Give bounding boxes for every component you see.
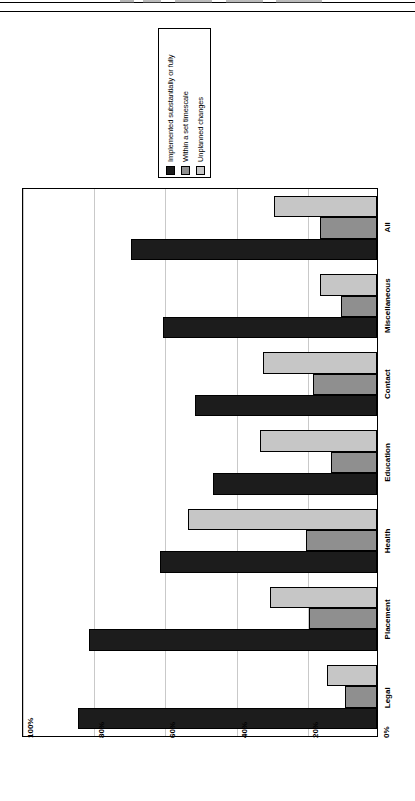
bar-group [23, 658, 377, 736]
chart-legend: Implemented substantially or fully Withi… [158, 28, 211, 178]
chart-legend-inner: Implemented substantially or fully Withi… [159, 29, 212, 179]
bar [306, 530, 377, 551]
bar [163, 317, 377, 338]
category-label-health: Health [380, 502, 398, 580]
value-tick-80pct: 80% [97, 702, 106, 738]
bar-group [23, 345, 377, 423]
category-label-contact: Contact [380, 345, 398, 423]
bar [213, 473, 377, 494]
legend-swatch-unplanned-icon [196, 166, 205, 175]
category-label-placement: Placement [380, 580, 398, 658]
category-axis: LegalPlacementHealthEducationContactMisc… [380, 188, 398, 737]
bar [260, 430, 377, 451]
bar-chart: LegalPlacementHealthEducationContactMisc… [14, 185, 400, 737]
header-rule-bottom [0, 11, 415, 12]
bar-group [23, 189, 377, 267]
bar [320, 274, 377, 295]
bar [78, 708, 377, 729]
bar-chart-canvas: LegalPlacementHealthEducationContactMisc… [14, 185, 400, 737]
category-label-miscellaneous: Miscellaneous [380, 266, 398, 344]
bar [309, 608, 377, 629]
bar [274, 196, 377, 217]
value-tick-100pct: 100% [26, 702, 35, 738]
value-tick-0pct: 0% [382, 702, 391, 738]
bar [160, 551, 377, 572]
bar [331, 452, 377, 473]
legend-swatch-timescale-icon [181, 166, 190, 175]
bar [320, 217, 377, 238]
bar-groups [23, 189, 377, 736]
bar [341, 296, 377, 317]
category-label-education: Education [380, 423, 398, 501]
bar [263, 352, 377, 373]
bar-group [23, 502, 377, 580]
bar-group [23, 267, 377, 345]
bar [270, 587, 377, 608]
legend-label-2: Unplanned changes [196, 97, 205, 162]
header-text-artifact [120, 0, 350, 3]
category-label-all: All [380, 188, 398, 266]
bar-group [23, 423, 377, 501]
legend-item-1: Within a set timescale [178, 29, 193, 175]
page-header-rules [0, 0, 415, 14]
value-tick-60pct: 60% [168, 702, 177, 738]
value-tick-40pct: 40% [240, 702, 249, 738]
bar [89, 629, 377, 650]
legend-swatch-implemented-icon [166, 166, 175, 175]
bar-group [23, 580, 377, 658]
bar [313, 374, 377, 395]
legend-item-2: Unplanned changes [193, 29, 208, 175]
bar [195, 395, 377, 416]
bar [131, 239, 377, 260]
legend-label-1: Within a set timescale [181, 91, 190, 162]
bar [327, 665, 377, 686]
legend-label-0: Implemented substantially or fully [166, 55, 175, 163]
plot-area [22, 188, 378, 737]
bar [345, 686, 377, 707]
value-tick-20pct: 20% [311, 702, 320, 738]
value-axis: 0%20%40%60%80%100% [0, 185, 14, 745]
bar [188, 509, 377, 530]
legend-item-0: Implemented substantially or fully [163, 29, 178, 175]
